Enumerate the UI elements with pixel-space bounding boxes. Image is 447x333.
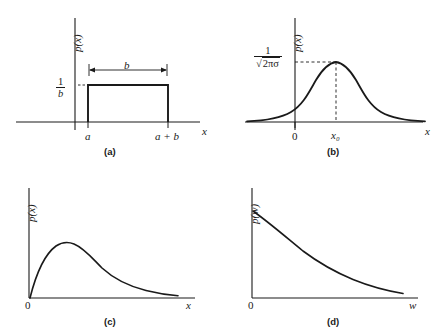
panel-a-y-tick-numerator: 1: [56, 76, 65, 87]
panel-d-x-axis-label: w: [409, 300, 416, 311]
panel-b-gaussian-distribution: p(x) 1 √2πσ 0 x₀ x (b): [223, 0, 446, 166]
panel-c-distribution-curve: [30, 242, 178, 298]
panel-a-x-axis-label: x: [202, 126, 207, 137]
panel-a-xtick-label-a-plus-b: a + b: [155, 131, 179, 142]
panel-b-xtick-label-zero: 0: [292, 131, 298, 142]
panel-a-uniform-distribution: p(x) 1 b b a a + b x (a): [0, 0, 223, 166]
panel-a-y-tick-label: 1 b: [56, 76, 65, 99]
panel-b-peak-label: 1 √2πσ: [254, 45, 282, 69]
figure-probability-distributions: p(x) 1 b b a a + b x (a): [0, 0, 447, 333]
panel-c-x-axis-label: x: [186, 300, 191, 311]
panel-d-caption: (d): [327, 316, 339, 327]
panel-a-y-tick-denominator: b: [56, 87, 65, 99]
panel-b-plot: [223, 0, 446, 166]
panel-d-xtick-label-zero: 0: [248, 300, 254, 311]
panel-b-peak-numerator: 1: [254, 45, 282, 56]
panel-a-y-axis-label: p(x): [72, 34, 83, 52]
panel-b-x-axis-label: x: [425, 126, 430, 137]
panel-a-arrow-head-right: [161, 68, 167, 73]
panel-b-caption: (b): [327, 146, 339, 157]
panel-c-caption: (c): [104, 316, 116, 327]
panel-b-peak-radicand: 2πσ: [262, 57, 280, 69]
panel-d-exponential-distribution: p(w) 0 w (d): [223, 166, 446, 332]
panel-c-y-axis-label: p(x): [26, 204, 37, 222]
panel-a-caption: (a): [104, 146, 116, 157]
panel-a-plot: [0, 0, 223, 166]
panel-d-decay-curve: [253, 211, 403, 294]
panel-b-peak-denominator: √2πσ: [254, 56, 282, 69]
panel-b-xtick-label-x0: x₀: [331, 130, 340, 141]
panel-c-xtick-label-zero: 0: [25, 300, 31, 311]
panel-b-y-axis-label: p(x): [292, 34, 303, 52]
panel-a-uniform-curve: [88, 85, 168, 122]
panel-a-xtick-label-a: a: [85, 131, 91, 142]
panel-c-maxwell-boltzmann-distribution: p(x) 0 x (c): [0, 166, 223, 332]
panel-a-arrow-head-left: [89, 68, 95, 73]
panel-a-dimension-label: b: [124, 60, 130, 71]
panel-d-y-axis-label: p(w): [249, 204, 260, 224]
